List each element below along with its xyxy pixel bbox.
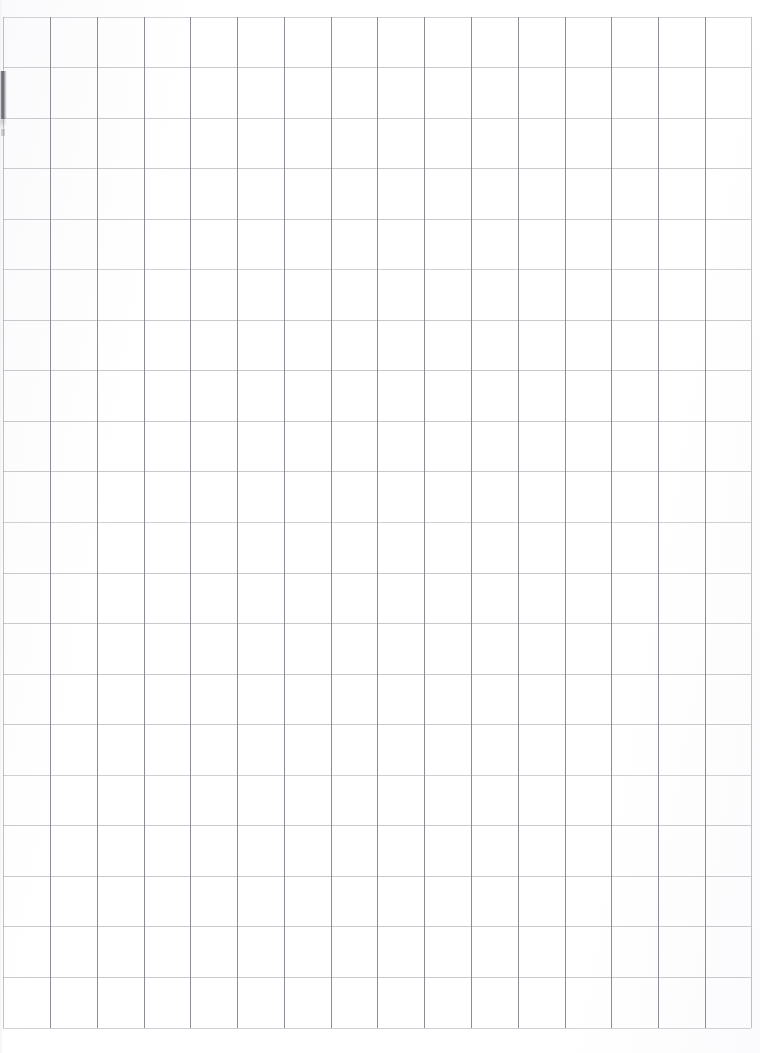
grid-line-horizontal [3,421,751,422]
grid-line-vertical [518,17,519,1028]
grid-line-vertical [471,17,472,1028]
grid-line-vertical [705,17,706,1028]
grid-line-horizontal [3,1028,751,1029]
grid-line-horizontal [3,67,751,68]
grid-line-vertical [237,17,238,1028]
scanned-page [0,0,760,1053]
grid-line-vertical [3,17,4,1028]
grid-line-horizontal [3,370,751,371]
scan-smudge-tail-artifact [0,119,5,128]
grid-line-vertical [658,17,659,1028]
grid-line-horizontal [3,269,751,270]
grid-line-horizontal [3,471,751,472]
grid-line-vertical [331,17,332,1028]
grid-line-horizontal [3,573,751,574]
grid-line-horizontal [3,522,751,523]
grid-line-horizontal [3,219,751,220]
grid-line-vertical [284,17,285,1028]
grid-line-vertical [611,17,612,1028]
grid-line-horizontal [3,17,751,18]
grid-line-horizontal [3,775,751,776]
grid-line-horizontal [3,320,751,321]
scan-smudge-artifact [0,71,7,119]
grid-line-vertical [190,17,191,1028]
grid-line-vertical [97,17,98,1028]
grid-line-vertical [424,17,425,1028]
grid-line-horizontal [3,926,751,927]
grid-line-horizontal [3,724,751,725]
grid-line-vertical [377,17,378,1028]
grid-line-horizontal [3,623,751,624]
grid-line-horizontal [3,674,751,675]
grid-line-horizontal [3,825,751,826]
grid-line-horizontal [3,977,751,978]
grid-line-vertical [144,17,145,1028]
grid-line-horizontal [3,168,751,169]
grid-line-vertical [751,17,752,1028]
grid-line-vertical [565,17,566,1028]
left-edge-shading [0,0,3,1053]
grid-line-vertical [50,17,51,1028]
scan-mark-artifact [1,129,5,136]
grid-line-horizontal [3,876,751,877]
paper-background [0,0,760,1053]
grid-line-horizontal [3,118,751,119]
grid-lines [0,0,760,1053]
